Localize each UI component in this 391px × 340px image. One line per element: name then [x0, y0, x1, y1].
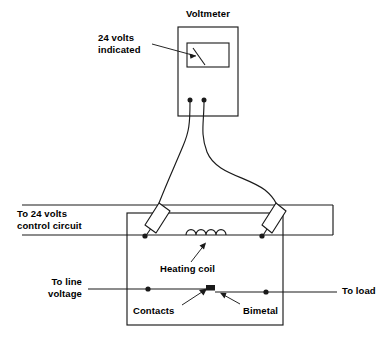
to-load-label: To load — [342, 285, 376, 297]
line-junction-dot — [145, 286, 150, 291]
test-lead-right — [203, 102, 276, 203]
line-voltage-label-line1: To line — [0, 276, 82, 288]
indicated-label-line1: 24 volts — [98, 32, 134, 44]
leader-arrow-indicated — [190, 54, 197, 59]
line-voltage-label-line2: voltage — [0, 288, 82, 300]
indicated-label-line2: indicated — [98, 44, 141, 56]
probe-contact-right — [259, 233, 264, 238]
contact-point — [206, 285, 215, 291]
heating-coil-label: Heating coil — [160, 263, 215, 275]
contacts-label: Contacts — [133, 305, 174, 317]
leader-arrow-bimetal — [220, 293, 227, 299]
control-circuit-label-line1: To 24 volts — [17, 208, 67, 220]
test-probe-right — [262, 203, 286, 237]
voltmeter-label: Voltmeter — [168, 8, 248, 20]
test-probe-left — [145, 203, 170, 237]
bimetal-label: Bimetal — [243, 305, 278, 317]
leader-indicated — [152, 44, 196, 56]
test-lead-left — [159, 102, 190, 203]
heating-coil-winding — [186, 230, 226, 235]
probe-contact-left — [142, 233, 147, 238]
voltmeter-case — [178, 27, 238, 116]
bimetal-junction-dot — [263, 289, 268, 294]
leader-arrow-heating-coil — [200, 243, 207, 250]
control-circuit-label-line2: control circuit — [17, 220, 82, 232]
diagram-canvas: Voltmeter 24 volts indicated To 24 volts… — [0, 0, 391, 340]
